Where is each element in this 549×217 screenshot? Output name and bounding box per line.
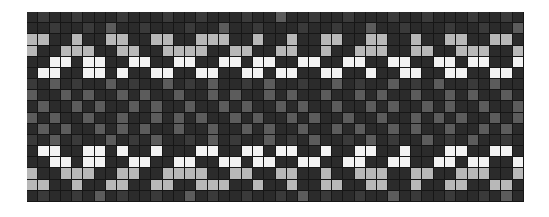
heatmap-cell xyxy=(411,101,422,112)
heatmap-cell xyxy=(38,79,49,90)
heatmap-cell xyxy=(422,168,433,179)
heatmap-cell xyxy=(264,57,275,68)
heatmap-cell xyxy=(298,168,309,179)
heatmap-cell xyxy=(140,146,151,157)
heatmap-cell xyxy=(490,12,501,23)
heatmap-cell xyxy=(83,146,94,157)
heatmap-cell xyxy=(208,180,219,191)
heatmap-cell xyxy=(27,135,38,146)
heatmap-cell xyxy=(434,46,445,57)
heatmap-cell xyxy=(343,168,354,179)
heatmap-cell xyxy=(196,46,207,57)
heatmap-cell xyxy=(72,146,83,157)
heatmap-cell xyxy=(129,23,140,34)
heatmap-cell xyxy=(377,168,388,179)
heatmap-cell xyxy=(422,146,433,157)
heatmap-cell xyxy=(309,12,320,23)
heatmap-cell xyxy=(309,191,320,202)
heatmap-cell xyxy=(468,57,479,68)
heatmap-cell xyxy=(321,135,332,146)
heatmap-cell xyxy=(117,34,128,45)
heatmap-cell xyxy=(151,191,162,202)
heatmap-cell xyxy=(129,146,140,157)
heatmap-cell xyxy=(400,79,411,90)
heatmap-cell xyxy=(422,124,433,135)
heatmap-cell xyxy=(72,23,83,34)
heatmap-cell xyxy=(83,180,94,191)
heatmap-cell xyxy=(366,68,377,79)
heatmap-cell xyxy=(400,146,411,157)
heatmap-cell xyxy=(411,34,422,45)
heatmap-cell xyxy=(456,79,467,90)
heatmap-cell xyxy=(287,101,298,112)
heatmap-cell xyxy=(242,191,253,202)
heatmap-cell xyxy=(219,180,230,191)
heatmap-cell xyxy=(456,12,467,23)
heatmap-cell xyxy=(366,191,377,202)
heatmap-cell xyxy=(468,79,479,90)
heatmap-cell xyxy=(106,23,117,34)
heatmap-cell xyxy=(513,146,524,157)
heatmap-cell xyxy=(309,135,320,146)
heatmap-cell xyxy=(366,168,377,179)
heatmap-cell xyxy=(366,146,377,157)
heatmap-cell xyxy=(468,157,479,168)
heatmap-cell xyxy=(230,180,241,191)
heatmap-cell xyxy=(95,79,106,90)
heatmap-cell xyxy=(264,23,275,34)
heatmap-cell xyxy=(208,57,219,68)
heatmap-cell xyxy=(264,135,275,146)
heatmap-cell xyxy=(321,101,332,112)
heatmap-cell xyxy=(501,34,512,45)
heatmap-cell xyxy=(174,23,185,34)
heatmap-cell xyxy=(163,90,174,101)
heatmap-cell xyxy=(411,113,422,124)
heatmap-cell xyxy=(513,57,524,68)
heatmap-cell xyxy=(163,23,174,34)
heatmap-cell xyxy=(50,12,61,23)
heatmap-cell xyxy=(513,101,524,112)
heatmap-cell xyxy=(61,68,72,79)
heatmap-cell xyxy=(321,68,332,79)
heatmap-cell xyxy=(151,180,162,191)
heatmap-cell xyxy=(309,46,320,57)
heatmap-cell xyxy=(411,135,422,146)
heatmap-cell xyxy=(298,57,309,68)
heatmap-cell xyxy=(298,79,309,90)
heatmap-cell xyxy=(50,57,61,68)
heatmap-cell xyxy=(513,180,524,191)
heatmap-cell xyxy=(27,124,38,135)
heatmap-cell xyxy=(185,146,196,157)
heatmap-cell xyxy=(242,68,253,79)
heatmap-cell xyxy=(196,90,207,101)
heatmap-cell xyxy=(400,34,411,45)
heatmap-cell xyxy=(422,68,433,79)
heatmap-cell xyxy=(411,23,422,34)
heatmap-cell xyxy=(185,79,196,90)
heatmap-cell xyxy=(117,23,128,34)
heatmap-cell xyxy=(264,168,275,179)
heatmap-cell xyxy=(411,168,422,179)
heatmap-cell xyxy=(38,23,49,34)
heatmap-cell xyxy=(253,124,264,135)
heatmap-cell xyxy=(38,113,49,124)
heatmap-cell xyxy=(38,90,49,101)
heatmap-cell xyxy=(287,79,298,90)
heatmap-cell xyxy=(151,146,162,157)
heatmap-cell xyxy=(61,168,72,179)
heatmap-cell xyxy=(287,68,298,79)
heatmap-cell xyxy=(174,146,185,157)
heatmap-cell xyxy=(106,135,117,146)
heatmap-cell xyxy=(332,12,343,23)
heatmap-cell xyxy=(106,34,117,45)
heatmap-cell xyxy=(242,113,253,124)
heatmap-cell xyxy=(264,12,275,23)
heatmap-cell xyxy=(287,90,298,101)
heatmap-cell xyxy=(151,157,162,168)
heatmap-cell xyxy=(400,90,411,101)
heatmap-cell xyxy=(230,12,241,23)
heatmap-cell xyxy=(95,23,106,34)
heatmap-cell xyxy=(332,191,343,202)
heatmap-cell xyxy=(253,113,264,124)
heatmap-cell xyxy=(264,113,275,124)
